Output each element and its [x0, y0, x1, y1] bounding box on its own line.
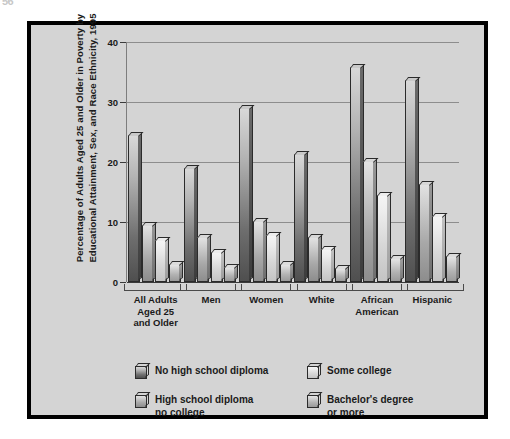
bar-group	[348, 42, 403, 282]
legend-swatch-icon	[135, 395, 147, 408]
bar	[321, 249, 333, 282]
bar-group	[293, 42, 348, 282]
bar-group	[127, 42, 182, 282]
category-label: White	[290, 294, 353, 306]
bar	[419, 184, 431, 282]
figure-panel: Percentage of Adults Aged 25 and Older i…	[31, 25, 484, 415]
legend-item[interactable]: Some college	[307, 365, 391, 379]
category-bracket	[235, 284, 298, 291]
gridline-0	[127, 282, 459, 283]
bar	[184, 168, 196, 282]
category-bracket	[180, 284, 243, 291]
bar	[363, 161, 375, 282]
bar	[350, 67, 362, 282]
bar	[128, 135, 140, 282]
category-4: White	[290, 284, 353, 306]
legend-item[interactable]: Bachelor's degree or more	[307, 394, 413, 419]
category-label: All Adults Aged 25 and Older	[124, 294, 187, 329]
bar	[432, 216, 444, 282]
bar	[142, 225, 154, 282]
legend-label: Bachelor's degree or more	[327, 394, 413, 419]
x-axis-categories: All Adults Aged 25 and OlderMenWomenWhit…	[127, 284, 459, 346]
page-corner-mark: 56	[2, 0, 13, 6]
legend-item[interactable]: High school diploma no college	[135, 394, 253, 419]
bar-group	[238, 42, 293, 282]
legend-swatch-side-face	[145, 392, 149, 407]
bar	[211, 252, 223, 282]
category-2: Men	[180, 284, 243, 306]
y-tick-mark-30	[120, 102, 126, 103]
legend-swatch-icon	[307, 395, 319, 408]
bar-side-face	[456, 254, 460, 281]
category-label: Hispanic	[401, 294, 464, 306]
category-bracket	[290, 284, 353, 291]
y-tick-mark-10	[120, 222, 126, 223]
bar	[377, 195, 389, 282]
y-tick-mark-40	[120, 42, 126, 43]
bar	[239, 108, 251, 282]
bar	[169, 264, 181, 282]
y-tick-label-40: 40	[107, 37, 118, 48]
bar	[253, 221, 265, 282]
bar-group	[182, 42, 237, 282]
category-1: All Adults Aged 25 and Older	[124, 284, 187, 329]
plot-area: 010203040	[127, 42, 459, 282]
category-bracket	[346, 284, 409, 291]
bar	[266, 235, 278, 282]
bar	[224, 267, 236, 282]
chart-legend: No high school diplomaSome collegeHigh s…	[135, 365, 465, 421]
y-tick-label-10: 10	[107, 217, 118, 228]
bar	[280, 264, 292, 282]
category-5: African American	[346, 284, 409, 317]
bar	[446, 256, 458, 282]
bar	[308, 237, 320, 282]
legend-label: No high school diploma	[155, 365, 268, 378]
y-tick-mark-0	[120, 282, 126, 283]
category-label: Women	[235, 294, 298, 306]
y-tick-label-20: 20	[107, 157, 118, 168]
legend-item[interactable]: No high school diploma	[135, 365, 268, 379]
bar-group	[404, 42, 459, 282]
bar	[405, 80, 417, 282]
legend-swatch-icon	[307, 366, 319, 379]
bar	[390, 258, 402, 282]
legend-swatch-side-face	[317, 363, 321, 378]
legend-label: Some college	[327, 365, 391, 378]
legend-label: High school diploma no college	[155, 394, 253, 419]
category-label: African American	[346, 294, 409, 317]
category-bracket	[124, 284, 187, 291]
y-tick-label-30: 30	[107, 97, 118, 108]
bar	[335, 268, 347, 282]
category-6: Hispanic	[401, 284, 464, 306]
category-3: Women	[235, 284, 298, 306]
plot-inner: 010203040	[127, 42, 459, 282]
bar	[197, 237, 209, 282]
y-tick-label-0: 0	[113, 277, 118, 288]
figure-frame: Percentage of Adults Aged 25 and Older i…	[27, 21, 488, 419]
category-bracket	[401, 284, 464, 291]
bar	[294, 154, 306, 282]
legend-swatch-icon	[135, 366, 147, 379]
bar	[155, 240, 167, 282]
category-label: Men	[180, 294, 243, 306]
legend-swatch-side-face	[317, 392, 321, 407]
legend-swatch-side-face	[145, 363, 149, 378]
y-axis-title: Percentage of Adults Aged 25 and Older i…	[69, 13, 103, 263]
y-tick-mark-20	[120, 162, 126, 163]
